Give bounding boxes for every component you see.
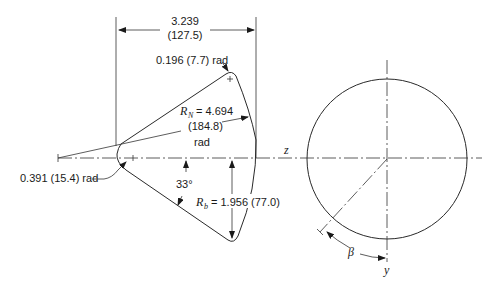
blade-profile (117, 72, 256, 241)
tip-radius-label: 0.196 (7.7) rad (156, 54, 228, 66)
nose-radius-value: = 4.694 (196, 105, 233, 117)
y-axis-label: y (383, 263, 390, 277)
nose-radius-arrow (222, 117, 248, 122)
beta-arc-arrow-right (360, 254, 385, 258)
nose-radius-line (58, 131, 181, 158)
base-radius-value: = 1.956 (77.0) (211, 196, 280, 208)
chord-length-value: 3.239 (171, 15, 199, 27)
beta-radial-line (320, 159, 387, 232)
z-axis-label: z (283, 143, 289, 157)
angle-label: 33° (176, 178, 193, 190)
nose-radius-symbol: R (179, 104, 188, 118)
beta-arc-arrow-left (327, 232, 350, 248)
base-radius-subscript: b (204, 202, 208, 211)
nose-radius-unit: rad (194, 136, 210, 148)
nose-radius-subscript: N (187, 111, 194, 120)
angle-arrow-down (178, 196, 182, 205)
base-radius-symbol: R (195, 195, 204, 209)
beta-label: β (347, 245, 354, 259)
nose-radius-metric: (184.8) (188, 120, 223, 132)
diagram-canvas: 3.239 (127.5) z R N = 4.694 (184.8) rad … (0, 0, 498, 288)
chord-length-metric: (127.5) (168, 29, 203, 41)
leading-edge-radius-label: 0.391 (15.4) rad (20, 172, 98, 184)
